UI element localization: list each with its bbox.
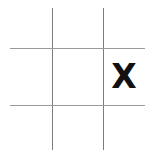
cell-r2c1[interactable] [10, 48, 52, 105]
cell-r2c3[interactable]: X [103, 48, 145, 105]
cell-mark-x: X [111, 60, 136, 93]
cell-r2c2[interactable] [52, 48, 103, 105]
cell-r3c2[interactable] [52, 105, 103, 150]
cell-r3c3[interactable] [103, 105, 145, 150]
tic-tac-toe-board: X [0, 0, 153, 158]
cell-r1c3[interactable] [103, 8, 145, 48]
cell-r1c1[interactable] [10, 8, 52, 48]
cell-r3c1[interactable] [10, 105, 52, 150]
cell-r1c2[interactable] [52, 8, 103, 48]
